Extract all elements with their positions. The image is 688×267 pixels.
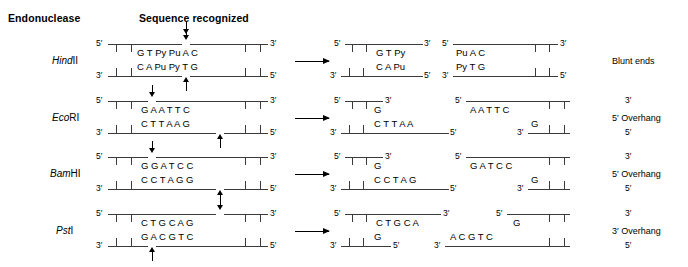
tick-top-d [260, 101, 261, 109]
end-type-hindii: Blunt ends [612, 56, 655, 66]
end-type-ecori: 5′ Overhang [612, 113, 661, 123]
tick-bottom-b [363, 181, 364, 189]
backbone-top [453, 44, 558, 45]
backbone-bottom-right [156, 246, 268, 247]
enzyme-name-hindii: HindII [52, 55, 78, 66]
label-5prime-top: 5′ [455, 95, 461, 105]
product-top-bases: C T G C A [376, 217, 419, 228]
label-5prime-bottom: 5′ [393, 240, 399, 250]
label-3prime-bottom: 3′ [96, 70, 102, 80]
backbone-top [345, 214, 441, 215]
label-5prime-bottom: 5′ [270, 240, 276, 250]
backbone-bottom [341, 246, 391, 247]
tick-bottom-a [535, 68, 536, 76]
tick-top-d [260, 44, 261, 52]
tick-top-b [564, 214, 565, 222]
label-3prime-bottom: 3′ [330, 70, 336, 80]
tick-bottom-b [363, 68, 364, 76]
reaction-arrow-ecori [295, 118, 329, 119]
tick-bottom-a [116, 125, 117, 133]
label-3prime-top: 3′ [385, 95, 391, 105]
label-5prime-top: 5′ [334, 95, 340, 105]
product-bottom-bases: C T T A A [374, 118, 413, 129]
enzyme-name-bamhi: BamHI [50, 168, 81, 179]
backbone-top-right [156, 101, 268, 102]
backbone-top-right [224, 214, 268, 215]
product-bottom-bases: G [531, 118, 538, 129]
substrate-top-bases-bamhi: G G A T C C [141, 160, 193, 171]
enzyme-name-hindii-roman: II [73, 55, 79, 66]
tick-bottom-b [131, 68, 132, 76]
backbone-top [507, 214, 570, 215]
reaction-arrow-hindii [295, 61, 329, 62]
label-3prime-bottom: 3′ [96, 127, 102, 137]
label-3prime-bottom: 3′ [96, 240, 102, 250]
product-top-bases: G A T C C [470, 160, 512, 171]
tick-bottom-a [349, 181, 350, 189]
enzyme-name-psti-italic: Pst [56, 225, 70, 236]
substrate-bottom-bases-bamhi: C C T A G G [141, 174, 193, 185]
figure-restriction-enzymes: Endonuclease Sequence recognized HindII … [0, 0, 688, 267]
tick-bottom-b [549, 68, 550, 76]
label-3prime-top: 3′ [560, 38, 566, 48]
label-5prime-top: 5′ [334, 208, 340, 218]
tick-bottom-d [260, 238, 261, 246]
tick-top-b [366, 101, 367, 109]
label-5prime-top: 5′ [96, 151, 102, 161]
backbone-top-left [108, 44, 182, 45]
label-5prime-top: 5′ [96, 208, 102, 218]
tick-top-a [549, 214, 550, 222]
tick-bottom-b [564, 125, 565, 133]
tick-top-a [535, 44, 536, 52]
tick-bottom-c [245, 238, 246, 246]
tick-top-b [564, 101, 565, 109]
tick-top-a [116, 214, 117, 222]
tick-top-a [116, 157, 117, 165]
label-3prime-bottom: 3′ [96, 183, 102, 193]
label-3prime-top: 3′ [385, 151, 391, 161]
tick-bottom-d [260, 181, 261, 189]
substrate-bottom-bases-hindii: C A Pu Py T G [137, 61, 198, 72]
tick-bottom-b [131, 125, 132, 133]
tick-bottom-c [245, 68, 246, 76]
product-top-bases: G [513, 217, 520, 228]
product-bottom-bases: C C T A G [374, 174, 416, 185]
backbone-bottom-left [108, 189, 216, 190]
tick-top-b [366, 44, 367, 52]
enzyme-name-hindii-italic: Hind [52, 55, 73, 66]
tick-top-a [549, 157, 550, 165]
backbone-top-left [108, 214, 216, 215]
label-5prime-bottom: 5′ [625, 127, 631, 137]
label-3prime-top: 3′ [270, 38, 276, 48]
tick-bottom-a [549, 181, 550, 189]
tick-top-a [352, 101, 353, 109]
product-bottom-bases: G [374, 231, 381, 242]
label-3prime-top: 3′ [443, 208, 449, 218]
tick-bottom-c [245, 125, 246, 133]
reaction-arrow-bamhi [295, 174, 329, 175]
label-3prime-top: 3′ [625, 208, 631, 218]
tick-top-b [131, 101, 132, 109]
label-5prime-bottom: 5′ [450, 127, 456, 137]
enzyme-name-ecori-italic: Eco [52, 112, 69, 123]
product-bottom-bases: C A Pu [376, 61, 405, 72]
backbone-bottom-left [108, 246, 148, 247]
backbone-bottom-left [108, 133, 216, 134]
tick-bottom-a [116, 181, 117, 189]
tick-top-d [260, 214, 261, 222]
label-3prime-top: 3′ [625, 95, 631, 105]
label-5prime-top: 5′ [455, 151, 461, 161]
label-3prime-top: 3′ [625, 151, 631, 161]
enzyme-name-ecori: EcoRI [52, 112, 79, 123]
tick-bottom-a [349, 125, 350, 133]
label-3prime-top: 3′ [270, 208, 276, 218]
label-5prime-top: 5′ [334, 151, 340, 161]
column-header-endonuclease: Endonuclease [8, 12, 80, 24]
backbone-top [345, 44, 423, 45]
tick-bottom-d [260, 125, 261, 133]
label-3prime-top: 3′ [270, 95, 276, 105]
product-top-bases: G T Py [376, 47, 405, 58]
label-5prime-bottom: 5′ [560, 70, 566, 80]
tick-top-c [245, 101, 246, 109]
end-type-bamhi: 5′ Overhang [612, 169, 661, 179]
